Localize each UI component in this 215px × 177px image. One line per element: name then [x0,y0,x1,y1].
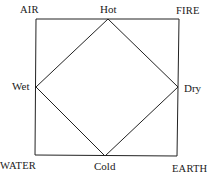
label-wet: Wet [12,81,29,92]
label-dry: Dry [184,83,201,94]
label-cold: Cold [94,161,115,172]
label-hot: Hot [100,4,117,15]
label-earth: EARTH [172,163,207,174]
label-water: WATER [0,160,36,171]
label-air: AIR [20,4,39,15]
outer-square [35,19,179,156]
elements-diagram [0,0,215,177]
inner-diamond [36,19,178,156]
label-fire: FIRE [176,5,200,16]
